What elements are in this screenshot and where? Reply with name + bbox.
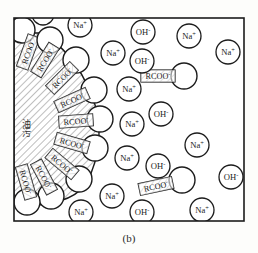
sodium-ion: Na+ <box>190 198 214 222</box>
svg-text:OH-: OH- <box>224 171 239 182</box>
svg-text:OH-: OH- <box>135 55 150 66</box>
sodium-ion: Na+ <box>100 184 124 208</box>
svg-text:OH-: OH- <box>136 26 151 37</box>
hydroxide-ion: OH- <box>130 49 154 73</box>
figure-caption: (b) <box>0 232 258 244</box>
sodium-ion: Na+ <box>101 41 125 65</box>
sodium-ion: Na+ <box>68 13 92 37</box>
edge-ion: + <box>32 3 54 25</box>
sodium-ion: Na+ <box>117 77 141 101</box>
sodium-ion: Na+ <box>115 146 139 170</box>
hydroxide-ion: OH- <box>131 20 155 44</box>
sodium-ion: Na+ <box>177 24 201 48</box>
emulsification-figure: RCOO-RCOO-RCOO-RCOO-RCOO-RCOO-RCOO-RCOO-… <box>0 0 258 253</box>
oil-droplet-label: 油污 <box>21 118 31 138</box>
svg-text:RCOO-: RCOO- <box>146 70 171 81</box>
svg-text:OH-: OH- <box>151 160 166 171</box>
sodium-ion: Na+ <box>216 40 240 64</box>
figure-canvas: RCOO-RCOO-RCOO-RCOO-RCOO-RCOO-RCOO-RCOO-… <box>0 0 258 253</box>
hydroxide-ion: OH- <box>219 165 243 189</box>
hydroxide-ion: OH- <box>146 154 170 178</box>
svg-text:OH-: OH- <box>135 206 150 217</box>
sodium-ion: Na+ <box>120 112 144 136</box>
sodium-ion: Na+ <box>185 133 209 157</box>
hydroxide-ion: OH- <box>149 102 173 126</box>
svg-text:OH-: OH- <box>154 108 169 119</box>
edge-ion-layer: + <box>32 3 54 25</box>
